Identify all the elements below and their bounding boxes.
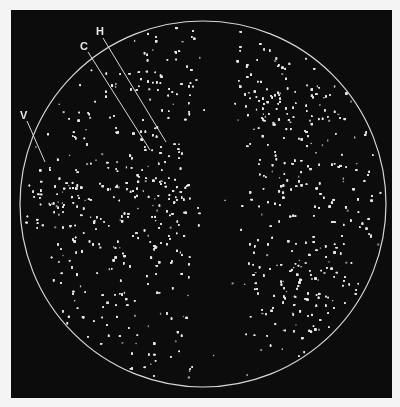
micrograph-figure: H C V [11, 10, 392, 398]
label-h: H [96, 26, 104, 37]
field-outline-circle [20, 21, 386, 387]
label-v: V [20, 110, 27, 121]
label-c: C [80, 41, 88, 52]
label-line-v [27, 121, 45, 162]
figure-overlay [11, 10, 392, 398]
